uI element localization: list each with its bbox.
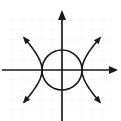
coordinate-plane-svg <box>0 0 121 121</box>
graph-figure <box>0 0 121 121</box>
